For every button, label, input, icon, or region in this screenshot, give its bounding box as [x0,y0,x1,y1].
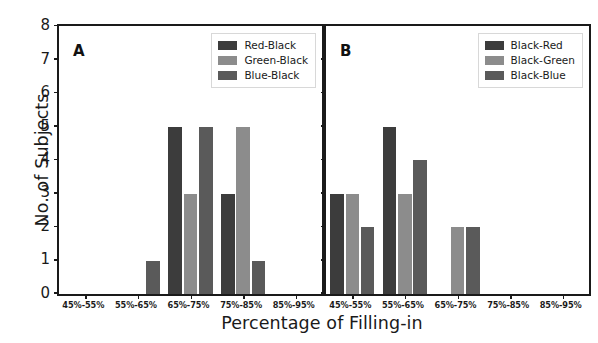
x-tick-mark [458,294,460,299]
legend-swatch-icon [218,41,237,50]
y-tick-mark [321,292,326,294]
x-tick-label: 75%-85% [484,300,532,310]
x-tick-mark [243,294,245,299]
y-tick-label: 0 [26,286,50,301]
y-tick-mark [54,125,59,127]
x-tick-mark [510,294,512,299]
bar [199,127,213,294]
legend-item: Blue-Black [218,68,308,83]
y-axis-tick-labels: 876543210 [22,0,50,343]
y-tick-mark [321,58,326,60]
legend-swatch-icon [485,41,504,50]
bar [184,194,198,294]
legend-item: Red-Black [218,38,308,53]
legend-item: Black-Blue [485,68,575,83]
legend-label: Green-Black [244,55,308,66]
y-tick-label: 6 [26,85,50,100]
y-tick-mark [54,25,59,27]
bar [466,227,480,294]
y-tick-mark [54,226,59,228]
legend-swatch-icon [485,71,504,80]
x-tick-label: 45%-55% [59,300,107,310]
x-tick-mark [563,294,565,299]
y-tick-label: 3 [26,185,50,200]
legend-label: Black-Blue [511,70,566,81]
x-tick-label: 85%-95% [270,300,318,310]
bar [413,160,427,294]
y-tick-mark [321,226,326,228]
x-tick-label: 45%-55% [326,300,374,310]
x-tick-label: 55%-65% [112,300,160,310]
y-tick-mark [54,159,59,161]
panel-b: B Black-RedBlack-GreenBlack-Blue [324,24,591,296]
x-tick-mark [85,294,87,299]
bar [346,194,360,294]
x-tick-label: 65%-75% [432,300,480,310]
x-tick-label: 65%-75% [165,300,213,310]
legend-swatch-icon [485,56,504,65]
bar [146,261,160,294]
y-tick-mark [54,192,59,194]
legend-label: Black-Green [511,55,575,66]
legend-item: Black-Red [485,38,575,53]
x-tick-mark [296,294,298,299]
x-tick-mark [405,294,407,299]
y-tick-mark [321,25,326,27]
y-tick-label: 5 [26,119,50,134]
legend-label: Black-Red [511,40,563,51]
panel-a: A Red-BlackGreen-BlackBlue-Black [57,24,324,296]
y-tick-label: 1 [26,252,50,267]
y-tick-mark [54,292,59,294]
panel-a-letter: A [73,42,85,60]
bar [236,127,250,294]
panel-b-legend: Black-RedBlack-GreenBlack-Blue [478,33,583,88]
legend-item: Black-Green [485,53,575,68]
y-tick-mark [321,125,326,127]
y-tick-mark [321,259,326,261]
bar [398,194,412,294]
y-tick-mark [321,159,326,161]
legend-item: Green-Black [218,53,308,68]
y-tick-mark [54,259,59,261]
panel-b-letter: B [340,42,351,60]
figure-canvas: No. of Subjects 876543210 A Red-BlackGre… [0,0,598,343]
x-axis-title: Percentage of Filling-in [52,313,592,333]
legend-label: Red-Black [244,40,296,51]
y-tick-label: 8 [26,18,50,33]
x-tick-mark [352,294,354,299]
y-tick-label: 2 [26,219,50,234]
legend-swatch-icon [218,56,237,65]
bar [383,127,397,294]
bar [252,261,266,294]
x-tick-label: 85%-95% [537,300,585,310]
y-tick-mark [54,58,59,60]
y-tick-label: 7 [26,52,50,67]
x-tick-label: 55%-65% [379,300,427,310]
y-tick-mark [321,192,326,194]
bar [168,127,182,294]
bar [221,194,235,294]
legend-swatch-icon [218,71,237,80]
bar [361,227,375,294]
legend-label: Blue-Black [244,70,299,81]
x-tick-mark [138,294,140,299]
y-tick-mark [321,92,326,94]
bar [330,194,344,294]
panel-a-legend: Red-BlackGreen-BlackBlue-Black [211,33,316,88]
y-tick-label: 4 [26,152,50,167]
x-tick-label: 75%-85% [217,300,265,310]
y-tick-mark [54,92,59,94]
bar [451,227,465,294]
x-tick-mark [191,294,193,299]
